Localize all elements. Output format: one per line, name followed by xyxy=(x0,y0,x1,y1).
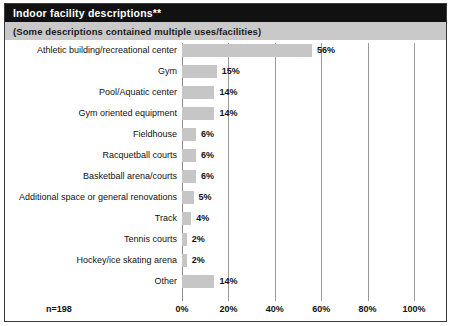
chart-footer: n=198 0%20%40%60%80%100% xyxy=(5,300,446,321)
bar xyxy=(182,149,196,162)
bar-row: Gym15% xyxy=(5,61,446,82)
bar-value-label: 5% xyxy=(199,187,212,208)
bar-category-label: Track xyxy=(5,208,177,229)
bar-category-label: Gym oriented equipment xyxy=(5,103,177,124)
bar-track: 14% xyxy=(182,271,446,292)
bar-category-label: Additional space or general renovations xyxy=(5,187,177,208)
bar-category-label: Gym xyxy=(5,61,177,82)
bar-value-label: 14% xyxy=(219,82,237,103)
bar-category-label: Tennis courts xyxy=(5,229,177,250)
bar xyxy=(182,233,187,246)
bar-value-label: 2% xyxy=(192,229,205,250)
x-tick-20: 20% xyxy=(219,300,237,318)
x-tick-100: 100% xyxy=(402,300,425,318)
bar-track: 6% xyxy=(182,145,446,166)
bar xyxy=(182,191,194,204)
bar xyxy=(182,128,196,141)
bar-row: Other14% xyxy=(5,271,446,292)
chart-title-bar: Indoor facility descriptions** xyxy=(5,4,446,22)
x-tick-40: 40% xyxy=(266,300,284,318)
chart-subtitle-bar: (Some descriptions contained multiple us… xyxy=(5,22,446,40)
bar-row: Fieldhouse6% xyxy=(5,124,446,145)
bar-track: 6% xyxy=(182,166,446,187)
bar-row: Pool/Aquatic center14% xyxy=(5,82,446,103)
bar-track: 15% xyxy=(182,61,446,82)
bar-row: Gym oriented equipment14% xyxy=(5,103,446,124)
bar-value-label: 15% xyxy=(222,61,240,82)
bar xyxy=(182,212,191,225)
x-tick-0: 0% xyxy=(175,300,188,318)
x-tick-60: 60% xyxy=(312,300,330,318)
bar-category-label: Hockey/ice skating arena xyxy=(5,250,177,271)
bar-row: Athletic building/recreational center56% xyxy=(5,40,446,61)
bar-row: Additional space or general renovations5… xyxy=(5,187,446,208)
bar xyxy=(182,44,312,57)
bar-value-label: 14% xyxy=(219,103,237,124)
bar-category-label: Pool/Aquatic center xyxy=(5,82,177,103)
bar-row: Racquetball courts6% xyxy=(5,145,446,166)
page-title: Indoor facility descriptions** xyxy=(5,7,161,19)
bar-row: Hockey/ice skating arena2% xyxy=(5,250,446,271)
bar-value-label: 6% xyxy=(201,166,214,187)
bar xyxy=(182,107,214,120)
bar-category-label: Fieldhouse xyxy=(5,124,177,145)
sample-size-label: n=198 xyxy=(46,300,72,318)
bar-value-label: 2% xyxy=(192,250,205,271)
plot-area: Athletic building/recreational center56%… xyxy=(5,40,446,321)
bar-value-label: 14% xyxy=(219,271,237,292)
bar-value-label: 6% xyxy=(201,145,214,166)
bar xyxy=(182,170,196,183)
bar-category-label: Athletic building/recreational center xyxy=(5,40,177,61)
bar-row: Tennis courts2% xyxy=(5,229,446,250)
bar-row: Track4% xyxy=(5,208,446,229)
bar-category-label: Basketball arena/courts xyxy=(5,166,177,187)
x-tick-80: 80% xyxy=(359,300,377,318)
bar-value-label: 4% xyxy=(196,208,209,229)
bar-value-label: 6% xyxy=(201,124,214,145)
bar-track: 14% xyxy=(182,103,446,124)
chart-figure: Indoor facility descriptions** (Some des… xyxy=(0,0,451,326)
bar-track: 2% xyxy=(182,229,446,250)
bar xyxy=(182,65,217,78)
bar-track: 14% xyxy=(182,82,446,103)
chart-subtitle: (Some descriptions contained multiple us… xyxy=(5,26,261,37)
bar xyxy=(182,254,187,267)
bar-track: 6% xyxy=(182,124,446,145)
bar-track: 2% xyxy=(182,250,446,271)
bar-track: 4% xyxy=(182,208,446,229)
bar-track: 5% xyxy=(182,187,446,208)
bar-category-label: Other xyxy=(5,271,177,292)
bar-rows: Athletic building/recreational center56%… xyxy=(5,40,446,292)
bar-category-label: Racquetball courts xyxy=(5,145,177,166)
bar xyxy=(182,86,214,99)
bar xyxy=(182,275,214,288)
bar-value-label: 56% xyxy=(317,40,335,61)
bar-row: Basketball arena/courts6% xyxy=(5,166,446,187)
bar-track: 56% xyxy=(182,40,446,61)
